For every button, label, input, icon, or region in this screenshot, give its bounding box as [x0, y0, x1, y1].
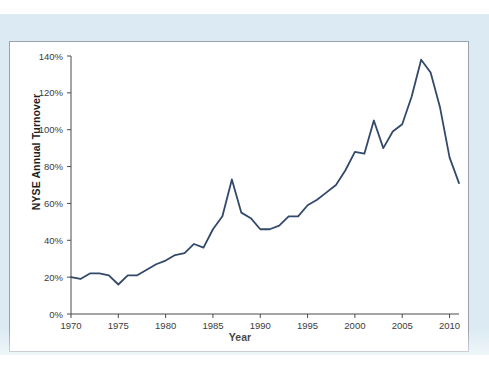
x-axis-tick-label: 1975: [108, 320, 129, 331]
y-axis-tick-label: 140%: [39, 51, 64, 62]
plot-area: 0%20%40%60%80%100%120%140%19701975198019…: [10, 42, 470, 353]
x-axis-tick-label: 1990: [250, 320, 271, 331]
x-axis-title: Year: [10, 331, 470, 343]
x-axis-tick-label: 1985: [202, 320, 223, 331]
x-axis-tick-label: 2005: [392, 320, 413, 331]
x-axis-tick-label: 1995: [297, 320, 318, 331]
y-axis-title: NYSE Annual Turnover: [30, 82, 42, 222]
y-axis-tick-label: 60%: [44, 198, 64, 209]
x-axis-tick-label: 2000: [344, 320, 365, 331]
y-axis-tick-label: 80%: [44, 161, 64, 172]
y-axis-tick-label: 40%: [44, 235, 64, 246]
y-axis-tick-label: 120%: [39, 87, 64, 98]
y-axis-tick-label: 20%: [44, 272, 64, 283]
y-axis-tick-label: 100%: [39, 124, 64, 135]
x-axis-tick-label: 1970: [60, 320, 81, 331]
x-axis-tick-label: 2010: [439, 320, 460, 331]
y-axis-tick-label: 0%: [49, 309, 63, 320]
figure-mat: 0%20%40%60%80%100%120%140%19701975198019…: [0, 14, 489, 355]
page-bleed-through-text: [0, 0, 489, 14]
chart-panel: 0%20%40%60%80%100%120%140%19701975198019…: [9, 41, 469, 352]
data-series-line: [71, 60, 459, 285]
chart-figure: 0%20%40%60%80%100%120%140%19701975198019…: [0, 0, 489, 367]
line-chart-svg: 0%20%40%60%80%100%120%140%19701975198019…: [10, 42, 470, 353]
x-axis-tick-label: 1980: [155, 320, 176, 331]
